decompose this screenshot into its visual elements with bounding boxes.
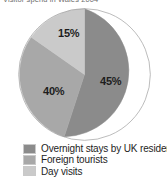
legend-item-foreign-tourists: Foreign tourists bbox=[23, 154, 167, 165]
legend-label-overnight-stays: Overnight stays by UK residents bbox=[41, 143, 167, 154]
legend-swatch-day-visits bbox=[23, 166, 36, 176]
pie-label-40: 40% bbox=[43, 85, 64, 97]
pie-svg bbox=[18, 8, 151, 141]
legend-item-day-visits: Day visits bbox=[23, 166, 167, 177]
pie-label-15: 15% bbox=[58, 27, 79, 39]
legend-swatch-foreign-tourists bbox=[23, 155, 36, 165]
legend-item-overnight-stays: Overnight stays by UK residents bbox=[23, 143, 167, 154]
pie-graphic bbox=[18, 8, 151, 141]
legend-label-foreign-tourists: Foreign tourists bbox=[41, 154, 108, 165]
pie-label-45: 45% bbox=[100, 75, 121, 87]
chart-legend: Overnight stays by UK residents Foreign … bbox=[23, 143, 167, 177]
pie-chart: 15% 45% 40% bbox=[0, 6, 167, 142]
legend-swatch-overnight-stays bbox=[23, 144, 36, 154]
legend-label-day-visits: Day visits bbox=[41, 166, 82, 177]
chart-caption-text: Visitor spend in Wales 2004 bbox=[3, 0, 163, 3]
